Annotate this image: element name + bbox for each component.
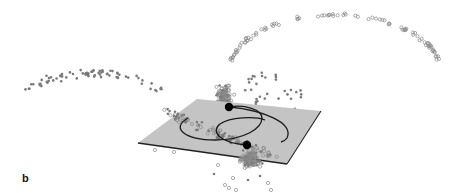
centroid-lower <box>243 141 251 149</box>
filled-point <box>261 162 264 165</box>
filled-point <box>221 134 224 137</box>
filled-point <box>82 72 85 75</box>
filled-point <box>224 85 227 88</box>
filled-point <box>290 98 293 101</box>
open-point <box>172 150 175 153</box>
open-point <box>414 31 417 34</box>
filled-point <box>40 79 43 82</box>
open-point <box>416 35 419 38</box>
filled-point <box>176 114 179 117</box>
filled-point <box>86 71 89 74</box>
open-point <box>252 34 255 37</box>
open-point <box>374 17 377 20</box>
filled-point <box>97 72 100 75</box>
filled-point <box>106 73 109 76</box>
open-point <box>163 108 166 111</box>
filled-point <box>45 75 48 78</box>
filled-point <box>300 93 303 96</box>
filled-point <box>218 84 221 87</box>
open-point <box>153 148 156 151</box>
filled-point <box>221 89 224 92</box>
filled-point <box>40 85 43 88</box>
filled-point <box>39 83 42 86</box>
open-point <box>227 186 230 189</box>
centroid-upper <box>225 103 233 111</box>
filled-point <box>261 71 264 74</box>
filled-point <box>115 76 118 79</box>
filled-point <box>79 69 82 72</box>
open-point <box>266 181 269 184</box>
open-point <box>320 14 323 17</box>
filled-point <box>201 121 204 124</box>
filled-point <box>137 77 140 80</box>
filled-point <box>250 78 253 81</box>
filled-point <box>255 144 258 147</box>
filled-point <box>247 164 250 167</box>
filled-point <box>50 76 53 79</box>
open-point <box>215 85 218 88</box>
filled-point <box>251 162 254 165</box>
filled-point <box>141 82 144 85</box>
open-point <box>239 44 242 47</box>
filled-point <box>247 179 250 182</box>
filled-point <box>195 129 198 132</box>
filled-point <box>166 108 169 111</box>
filled-point <box>127 76 130 79</box>
open-point <box>216 163 219 166</box>
filled-point <box>244 89 247 92</box>
filled-point <box>251 146 254 149</box>
filled-point <box>264 97 267 100</box>
open-point <box>249 38 252 41</box>
filled-point <box>52 79 55 82</box>
filled-point <box>275 78 278 81</box>
filled-point <box>261 75 264 78</box>
filled-point <box>255 98 258 101</box>
filled-point <box>196 121 199 124</box>
filled-point <box>250 89 253 92</box>
filled-point <box>149 88 152 91</box>
filled-point <box>248 81 251 84</box>
filled-point <box>224 132 227 135</box>
filled-point <box>150 82 153 85</box>
filled-point <box>290 89 293 92</box>
filled-point <box>213 173 216 176</box>
filled-point <box>247 78 250 81</box>
filled-point <box>277 97 280 100</box>
filled-point <box>65 76 68 79</box>
open-point <box>412 33 415 36</box>
filled-point <box>252 75 255 78</box>
open-point <box>169 114 172 117</box>
open-point <box>223 183 226 186</box>
filled-point <box>266 93 269 96</box>
open-point <box>316 15 319 18</box>
filled-point <box>284 90 287 93</box>
filled-point <box>255 83 258 86</box>
filled-point <box>72 73 75 76</box>
filled-point <box>258 160 261 163</box>
filled-point <box>259 175 262 178</box>
open-point <box>371 16 374 19</box>
filled-point <box>299 89 302 92</box>
filled-point <box>76 77 79 80</box>
open-point <box>233 93 236 96</box>
filled-point <box>69 71 72 74</box>
filled-point <box>32 83 35 86</box>
filled-point <box>87 75 90 78</box>
filled-point <box>99 69 102 72</box>
filled-point <box>228 135 231 138</box>
scatter-figure <box>0 0 455 193</box>
filled-point <box>154 89 157 92</box>
filled-point <box>47 80 50 83</box>
background-points <box>24 12 440 117</box>
filled-point <box>60 80 63 83</box>
filled-point <box>286 93 289 96</box>
filled-point <box>101 71 104 74</box>
filled-point <box>116 72 119 75</box>
filled-point <box>141 79 144 82</box>
filled-point <box>108 74 111 77</box>
filled-point <box>260 150 263 153</box>
filled-point <box>100 76 103 79</box>
foreground-points <box>153 148 272 191</box>
filled-point <box>61 73 64 76</box>
open-point <box>259 165 262 168</box>
